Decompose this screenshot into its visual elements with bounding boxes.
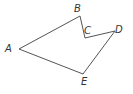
vertex-label-c: C bbox=[84, 25, 91, 36]
vertex-label-d: D bbox=[115, 24, 123, 35]
vertex-label-a: A bbox=[4, 43, 12, 54]
vertex-label-e: E bbox=[81, 76, 88, 87]
pentagon-abcde bbox=[19, 16, 115, 74]
vertex-label-b: B bbox=[74, 3, 81, 14]
pentagon-diagram: A B C D E bbox=[0, 0, 133, 94]
